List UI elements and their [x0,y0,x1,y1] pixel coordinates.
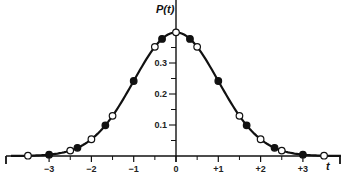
open-point [109,113,116,120]
y-tick-label: 0.1 [154,120,167,130]
axes: −3−2−10+1+2+30.10.20.3 [6,0,340,174]
filled-point [74,145,81,152]
filled-point [215,78,222,85]
open-point [173,29,180,36]
filled-point [159,36,166,43]
y-tick-label: 0.3 [154,58,167,68]
filled-point [46,151,53,158]
open-point [278,147,285,154]
x-tick-label: +3 [298,164,308,174]
filled-point [300,151,307,158]
x-tick-label: 0 [173,164,178,174]
y-tick-label: 0.2 [154,89,167,99]
filled-point [130,78,137,85]
open-point [25,152,32,159]
filled-point [243,122,250,129]
filled-point [102,122,109,129]
filled-point [187,36,194,43]
open-point [321,152,328,159]
x-tick-label: −1 [129,164,139,174]
x-tick-label: −2 [86,164,96,174]
open-point [257,136,264,143]
x-tick-label: +1 [213,164,223,174]
open-point [194,44,201,51]
y-axis-title: P(t) [156,3,175,15]
x-tick-label: −3 [44,164,54,174]
x-tick-label: +2 [255,164,265,174]
x-axis-title: t [326,160,331,172]
open-point [88,136,95,143]
open-point [152,44,159,51]
open-point [236,113,243,120]
normal-distribution-chart: −3−2−10+1+2+30.10.20.3 P(t) t [0,0,346,184]
filled-point [271,145,278,152]
open-point [67,147,74,154]
